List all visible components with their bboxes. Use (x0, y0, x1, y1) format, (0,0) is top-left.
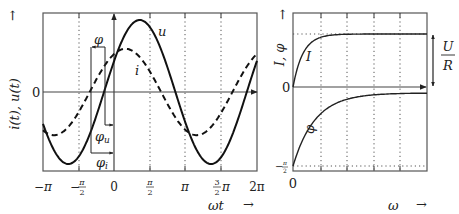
I-curve-label: I (305, 49, 312, 64)
right-y-label: I, φ (272, 43, 287, 67)
left-x-label: ωt (208, 198, 225, 213)
phi-i-label: φi (96, 155, 108, 171)
tick-half-pi: π 2 (146, 178, 154, 197)
current-amplitude-curve (293, 34, 427, 87)
phi-curve-label: φ (302, 124, 317, 134)
u-curve-label: u (158, 24, 166, 39)
right-x-arrow: → (416, 197, 427, 212)
tick-pi: π (180, 180, 190, 194)
phi-u-label: φu (95, 129, 110, 145)
right-x-zero-label: 0 (289, 176, 297, 191)
tick-zero: 0 (110, 180, 118, 194)
svg-text:π: π (78, 178, 85, 187)
svg-text:2: 2 (79, 188, 84, 197)
left-x-arrow: → (243, 197, 254, 212)
svg-text:π: π (146, 178, 153, 187)
right-neg-half-pi-label: − π 2 (275, 159, 288, 174)
figure: φ φu φi u i 0 → i(t), u(t) −π − π 2 0 π … (0, 0, 459, 214)
svg-text:π: π (221, 180, 231, 194)
left-plot: φ φu φi u i 0 → i(t), u(t) −π − π 2 0 π … (5, 10, 265, 213)
svg-text:2: 2 (214, 188, 219, 197)
tick-neg-pi: −π (34, 180, 53, 194)
tick-three-half-pi: 3 2 π (213, 178, 231, 197)
svg-text:π: π (282, 159, 288, 166)
left-y-label: i(t), u(t) (7, 78, 22, 130)
left-y-arrow: → (5, 10, 20, 21)
right-zero-label: 0 (282, 80, 290, 95)
tick-two-pi: 2π (249, 180, 265, 194)
right-y-arrow: → (275, 9, 290, 20)
tick-neg-half-pi: − π 2 (70, 178, 86, 197)
right-x-label: ω (388, 198, 399, 213)
svg-text:U: U (443, 39, 455, 54)
svg-text:2: 2 (283, 167, 287, 174)
right-grid (293, 13, 427, 171)
svg-text:R: R (442, 58, 453, 73)
right-plot: I φ 0 − π 2 0 → I, φ U R ω → (272, 9, 455, 213)
right-ticks (321, 13, 400, 171)
svg-text:3: 3 (214, 178, 219, 187)
right-frame (293, 13, 427, 171)
asymptote-label: U R (441, 39, 455, 73)
phi-label: φ (94, 32, 104, 47)
left-x-tick-labels: −π − π 2 0 π 2 π 3 2 π 2π (34, 178, 265, 197)
svg-text:2: 2 (147, 188, 152, 197)
left-zero-label: 0 (32, 85, 40, 100)
i-curve-label: i (135, 63, 139, 78)
